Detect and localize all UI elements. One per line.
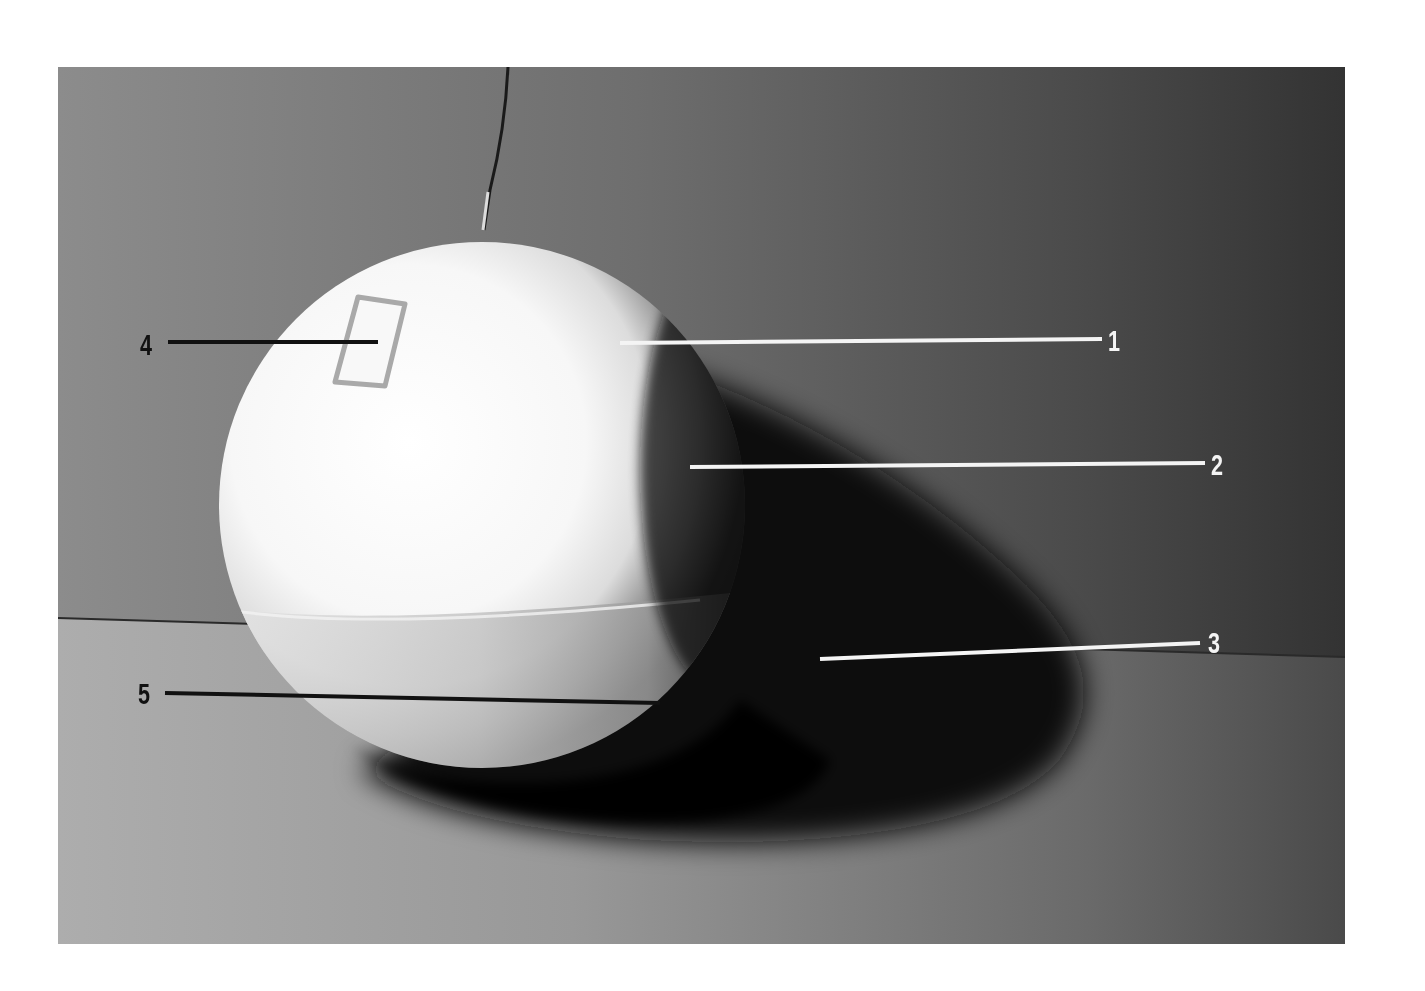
callout-label-3: 3: [1208, 628, 1220, 658]
callout-label-2: 2: [1211, 450, 1223, 480]
callout-label-5: 5: [138, 679, 150, 709]
callout-label-4: 4: [140, 330, 152, 360]
photo-canvas: [58, 67, 1345, 944]
sphere-photograph: [58, 67, 1345, 944]
callout-label-1: 1: [1108, 326, 1120, 356]
